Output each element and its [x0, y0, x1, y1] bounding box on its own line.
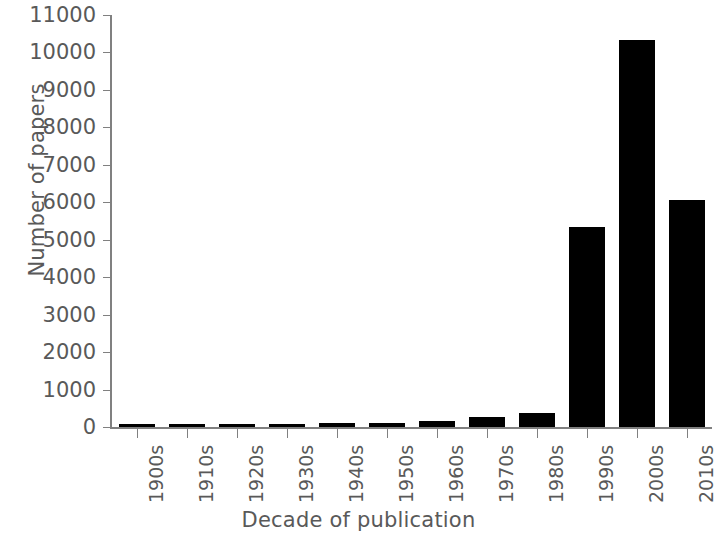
y-axis-tick-mark: [103, 352, 110, 353]
x-axis-tick-label: 1960s: [445, 441, 467, 503]
y-axis-tick-label: 8000: [0, 115, 96, 139]
plot-area: [112, 15, 712, 427]
x-axis-tick-label: 1920s: [245, 441, 267, 503]
y-axis-tick-mark: [103, 52, 110, 53]
y-axis-tick-mark: [103, 315, 110, 316]
x-axis-tick-label: 1970s: [495, 441, 517, 503]
bar: [369, 423, 405, 427]
x-axis-tick-label: 1940s: [345, 441, 367, 503]
y-axis-tick-label: 5000: [0, 228, 96, 252]
bar-chart: Number of papers 01000200030004000500060…: [0, 0, 717, 539]
x-axis-tick-label: 1980s: [545, 441, 567, 503]
bar: [469, 417, 505, 427]
x-axis-tick-label: 1990s: [595, 441, 617, 503]
y-axis-tick-mark: [103, 15, 110, 16]
y-axis-tick-label: 1000: [0, 378, 96, 402]
x-axis-tick-mark: [437, 429, 438, 438]
x-axis-tick-label: 2000s: [645, 441, 667, 503]
bar: [619, 40, 655, 427]
bar: [419, 421, 455, 427]
x-axis-tick-label: 2010s: [695, 441, 717, 503]
bar: [269, 424, 305, 427]
y-axis-tick-label: 9000: [0, 78, 96, 102]
x-axis-tick-mark: [237, 429, 238, 438]
y-axis-tick-label: 4000: [0, 265, 96, 289]
y-axis-tick-mark: [103, 90, 110, 91]
x-axis-tick-mark: [187, 429, 188, 438]
x-axis-tick-mark: [637, 429, 638, 438]
y-axis-tick-mark: [103, 240, 110, 241]
x-axis-tick-mark: [337, 429, 338, 438]
y-axis-tick-label: 10000: [0, 40, 96, 64]
y-axis-tick-label: 0: [0, 415, 96, 439]
y-axis-tick-label: 11000: [0, 3, 96, 27]
y-axis-tick-mark: [103, 165, 110, 166]
x-axis-title: Decade of publication: [0, 508, 717, 532]
bar: [219, 424, 255, 427]
bar: [569, 227, 605, 427]
y-axis-tick-label: 6000: [0, 190, 96, 214]
bar: [669, 200, 705, 427]
y-axis-tick-mark: [103, 277, 110, 278]
y-axis-tick-mark: [103, 390, 110, 391]
x-axis-tick-mark: [287, 429, 288, 438]
bar: [119, 424, 155, 427]
x-axis-tick-mark: [687, 429, 688, 438]
x-axis-tick-mark: [387, 429, 388, 438]
x-axis-tick-mark: [537, 429, 538, 438]
x-axis-tick-label: 1950s: [395, 441, 417, 503]
x-axis-tick-marks: [112, 429, 712, 438]
x-axis-tick-mark: [137, 429, 138, 438]
x-axis-tick-label: 1910s: [195, 441, 217, 503]
bar: [319, 423, 355, 427]
y-axis-tick-label: 3000: [0, 303, 96, 327]
x-axis-tick-mark: [487, 429, 488, 438]
y-axis-tick-mark: [103, 127, 110, 128]
x-axis-tick-label: 1930s: [295, 441, 317, 503]
y-axis-tick-label: 2000: [0, 340, 96, 364]
bar: [169, 424, 205, 427]
x-axis-tick-mark: [587, 429, 588, 438]
x-axis-tick-labels: 1900s1910s1920s1930s1940s1950s1960s1970s…: [112, 441, 712, 503]
y-axis-tick-mark: [103, 427, 110, 428]
y-axis-tick-label: 7000: [0, 153, 96, 177]
x-axis-tick-label: 1900s: [145, 441, 167, 503]
bar: [519, 413, 555, 427]
y-axis-tick-mark: [103, 202, 110, 203]
y-axis-tick-labels: 0100020003000400050006000700080009000100…: [0, 0, 96, 539]
